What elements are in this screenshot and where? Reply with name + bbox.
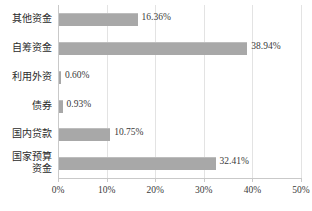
plot-area: 16.36% 38.94% 0.60% 0.93% 10.75% 32.41%	[58, 5, 301, 178]
bar-row: 0.93%	[58, 92, 301, 121]
x-tick-label: 40%	[232, 184, 272, 196]
bar-other-funds	[58, 13, 138, 26]
category-label-bonds: 债券	[0, 100, 52, 112]
bar-value-label: 16.36%	[142, 11, 171, 24]
bar-domestic-loans	[58, 128, 110, 141]
bar-state-budget-funds	[58, 157, 216, 170]
category-label-other-funds: 其他资金	[0, 13, 52, 25]
bar-value-label: 32.41%	[220, 155, 249, 168]
x-tick-label: 10%	[87, 184, 127, 196]
x-tick-mark	[58, 178, 59, 182]
bar-row: 10.75%	[58, 120, 301, 149]
category-label-foreign-investment: 利用外资	[0, 71, 52, 83]
bar-self-raised-funds	[58, 42, 247, 55]
x-axis-line	[58, 178, 302, 179]
bar-row: 32.41%	[58, 149, 301, 178]
x-tick-mark	[252, 178, 253, 182]
bar-row: 38.94%	[58, 34, 301, 63]
x-tick-mark	[204, 178, 205, 182]
bar-value-label: 10.75%	[114, 126, 143, 139]
bar-chart: 16.36% 38.94% 0.60% 0.93% 10.75% 32.41%	[0, 0, 312, 211]
x-tick-mark	[301, 178, 302, 182]
category-label-state-budget-funds: 国家预算 资金	[0, 151, 52, 175]
category-label-domestic-loans: 国内贷款	[0, 128, 52, 140]
gridline-50	[301, 5, 302, 178]
bar-value-label: 38.94%	[251, 40, 280, 53]
x-tick-mark	[155, 178, 156, 182]
x-tick-mark	[107, 178, 108, 182]
x-tick-label: 30%	[184, 184, 224, 196]
y-axis-line	[58, 5, 59, 178]
bar-row: 0.60%	[58, 63, 301, 92]
category-label-self-raised-funds: 自筹资金	[0, 42, 52, 54]
x-tick-label: 0%	[38, 184, 78, 196]
bar-row: 16.36%	[58, 5, 301, 34]
x-tick-label: 20%	[135, 184, 175, 196]
x-tick-label: 50%	[281, 184, 312, 196]
bar-value-label: 0.60%	[65, 69, 90, 82]
bar-value-label: 0.93%	[67, 98, 92, 111]
